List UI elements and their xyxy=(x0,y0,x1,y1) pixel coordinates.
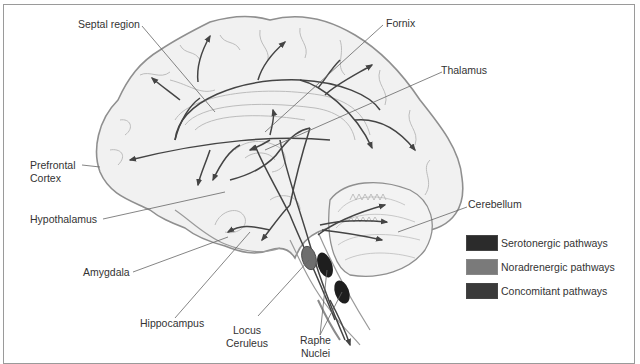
label-prefrontal-line1: Prefrontal xyxy=(30,159,76,172)
legend-label-noradrenergic: Noradrenergic pathways xyxy=(501,261,615,273)
legend: Serotonergic pathways Noradrenergic path… xyxy=(466,234,615,306)
label-hippocampus: Hippocampus xyxy=(140,317,204,330)
label-amygdala: Amygdala xyxy=(83,266,130,279)
legend-label-serotonergic: Serotonergic pathways xyxy=(501,237,608,249)
label-hypothalamus: Hypothalamus xyxy=(30,213,97,226)
label-septal-region: Septal region xyxy=(78,18,140,31)
label-locus-line2: Ceruleus xyxy=(226,337,268,350)
label-thalamus: Thalamus xyxy=(441,64,487,77)
label-raphe-nuclei: Raphe Nuclei xyxy=(300,334,331,360)
label-prefrontal-cortex: Prefrontal Cortex xyxy=(30,159,76,185)
label-locus-line1: Locus xyxy=(226,324,268,337)
legend-label-concomitant: Concomitant pathways xyxy=(501,285,607,297)
label-raphe-line2: Nuclei xyxy=(300,347,331,360)
label-locus-ceruleus: Locus Ceruleus xyxy=(226,324,268,350)
swatch-concomitant xyxy=(466,283,498,299)
cerebellum-shape xyxy=(329,183,433,277)
label-prefrontal-line2: Cortex xyxy=(30,172,76,185)
label-fornix: Fornix xyxy=(386,17,415,30)
label-cerebellum: Cerebellum xyxy=(468,198,522,211)
swatch-noradrenergic xyxy=(466,259,498,275)
legend-item-serotonergic: Serotonergic pathways xyxy=(466,234,615,252)
legend-item-concomitant: Concomitant pathways xyxy=(466,282,615,300)
label-raphe-line1: Raphe xyxy=(300,334,331,347)
swatch-serotonergic xyxy=(466,235,498,251)
legend-item-noradrenergic: Noradrenergic pathways xyxy=(466,258,615,276)
